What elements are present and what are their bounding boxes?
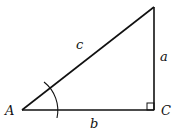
right-triangle-diagram: A C c a b bbox=[0, 0, 173, 130]
right-angle-marker bbox=[147, 103, 154, 110]
triangle bbox=[22, 7, 154, 110]
vertex-label-a: A bbox=[4, 103, 14, 118]
vertex-label-c: C bbox=[161, 103, 171, 118]
side-label-b: b bbox=[90, 116, 98, 130]
side-c-hypotenuse bbox=[22, 7, 154, 110]
side-label-a: a bbox=[160, 49, 168, 64]
side-label-c: c bbox=[76, 37, 84, 52]
